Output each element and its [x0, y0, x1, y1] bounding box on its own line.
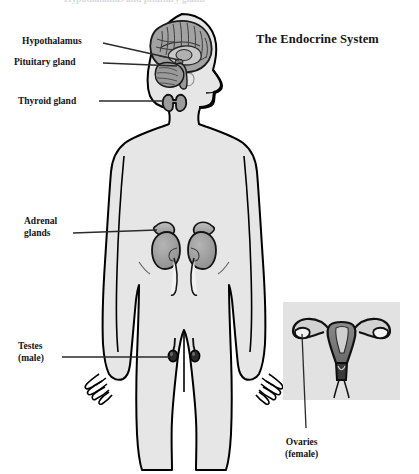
label-testes: Testes (male) [18, 341, 44, 364]
label-adrenal-glands: Adrenal glands [24, 216, 57, 239]
anatomy-illustration [0, 0, 419, 474]
cervix [336, 363, 347, 380]
label-ovaries: Ovaries (female) [285, 437, 318, 460]
label-adrenal-glands-line2: glands [24, 228, 57, 240]
ovary-right [373, 328, 388, 338]
label-ovaries-line1: Ovaries [285, 437, 318, 449]
label-ovaries-line2: (female) [285, 449, 318, 461]
endocrine-system-figure: Hypothalamus and pituitary gland [0, 0, 419, 474]
female-reproductive-inset [283, 302, 400, 400]
label-pituitary-gland: Pituitary gland [14, 57, 76, 69]
label-adrenal-glands-line1: Adrenal [24, 216, 57, 228]
label-hypothalamus: Hypothalamus [22, 36, 82, 48]
label-testes-line2: (male) [18, 353, 44, 365]
figure-title: The Endocrine System [256, 32, 379, 47]
label-thyroid-gland: Thyroid gland [18, 96, 76, 108]
label-testes-line1: Testes [18, 341, 44, 353]
